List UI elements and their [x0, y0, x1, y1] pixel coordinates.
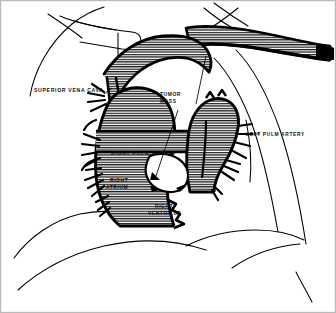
label-right-atrium-line1: RIGHT [110, 178, 128, 183]
label-tumor-mass-line1: TUMOR [160, 92, 181, 97]
chest-diagram-svg: SUPERIOR VENA CAVA TUMOR MASS LEFT PULM … [0, 0, 336, 313]
label-superior-vena-cava: SUPERIOR VENA CAVA [34, 87, 104, 93]
label-right-ventricle-line2: VENTRICLE [148, 211, 181, 216]
label-left-pulm-artery: LEFT PULM ARTERY [246, 132, 305, 137]
label-tumor-mass-line2: MASS [160, 99, 177, 104]
label-right-ventricle-line1: RIGHT [155, 204, 173, 209]
label-right-atrium-line2: ATRIUM [106, 185, 128, 190]
label-right-pulm-artery: RIGHT PULM ARTERY [111, 150, 177, 156]
left-pulmonary-artery [184, 90, 252, 200]
anatomical-figure: SUPERIOR VENA CAVA TUMOR MASS LEFT PULM … [0, 0, 336, 313]
